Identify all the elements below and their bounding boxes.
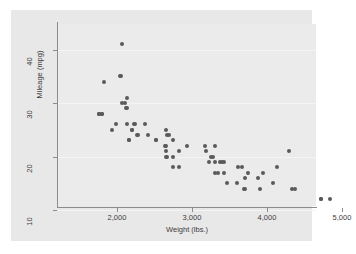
data-point [146,133,150,137]
x-axis-line [57,207,317,208]
data-point [235,181,239,185]
data-point [213,144,217,148]
data-point [211,155,215,159]
data-point [213,171,217,175]
data-point [246,171,250,175]
data-point [171,138,175,142]
y-tick-mark [53,50,57,51]
data-point [164,149,168,153]
data-point [177,149,181,153]
data-point [213,160,217,164]
data-point [120,42,124,46]
gridline [58,103,316,104]
data-point [164,128,168,132]
data-point [100,112,104,116]
data-point [258,187,262,191]
gridline [58,210,316,211]
data-point [164,144,168,148]
data-point [243,176,247,180]
x-tick-mark [117,208,118,212]
plot-area [58,24,316,206]
data-point [177,165,181,169]
data-point [319,197,323,201]
x-tick-mark [267,208,268,212]
data-point [154,138,158,142]
data-point [225,181,229,185]
data-point [102,80,106,84]
data-point [256,176,260,180]
y-tick-mark [53,157,57,158]
y-tick-label: 20 [25,156,34,180]
data-point [125,122,129,126]
data-point [143,122,147,126]
data-point [110,128,114,132]
y-tick-label: 10 [25,210,34,234]
gridline [58,157,316,158]
x-axis-title: Weight (lbs.) [58,225,316,234]
graph-canvas: 10203040 2,0003,0004,0005,000 Mileage (m… [11,10,312,241]
data-point [125,106,129,110]
data-point [171,165,175,169]
x-tick-mark [342,208,343,212]
data-point [185,144,189,148]
data-point [271,181,275,185]
x-tick-label: 3,000 [172,213,212,222]
data-point [240,165,244,169]
y-tick-label: 30 [25,103,34,127]
data-point [130,128,134,132]
data-point [207,160,211,164]
data-point [164,155,168,159]
y-axis-line [57,22,58,208]
data-point [136,133,140,137]
x-tick-label: 2,000 [97,213,137,222]
data-point [171,155,175,159]
data-point [114,122,118,126]
data-point [125,96,129,100]
y-tick-mark [53,210,57,211]
data-point [222,160,226,164]
data-point [243,187,247,191]
data-point [127,138,131,142]
plot-region [58,24,316,206]
data-point [204,149,208,153]
x-tick-mark [192,208,193,212]
y-tick-label: 40 [25,49,34,73]
y-axis-title: Mileage (mpg) [35,30,44,120]
data-point [293,187,297,191]
data-point [203,144,207,148]
gridline [58,50,316,51]
y-tick-mark [53,103,57,104]
data-point [236,165,240,169]
x-tick-label: 4,000 [247,213,287,222]
data-point [261,171,265,175]
data-point [222,171,226,175]
data-point [275,165,279,169]
data-point [328,197,332,201]
data-point [133,122,137,126]
data-point [287,149,291,153]
x-tick-label: 5,000 [322,213,356,222]
